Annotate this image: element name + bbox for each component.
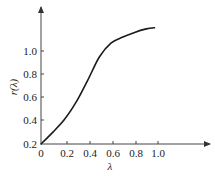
x-tick-label: 0.6 <box>106 147 120 159</box>
chart: 1.0 0.8 0.6 0.4 0.2 0 0.2 0.4 0.6 0.8 1.… <box>0 0 215 178</box>
y-tick-label: 1.0 <box>23 45 37 57</box>
series-line <box>41 28 155 144</box>
y-tick-label: 0.4 <box>23 114 37 126</box>
x-axis-label: λ <box>107 160 113 172</box>
y-tick-label: 0.6 <box>23 91 37 103</box>
x-tick-label: 0 <box>38 147 44 159</box>
y-tick-label: 0.2 <box>23 138 37 150</box>
x-tick-label: 0.2 <box>60 147 74 159</box>
x-tick-label: 1.0 <box>151 147 165 159</box>
x-tick-label: 0.4 <box>83 147 97 159</box>
x-tick-label: 0.8 <box>129 147 143 159</box>
y-axis-label: r(λ) <box>7 78 20 95</box>
y-tick-label: 0.8 <box>23 68 37 80</box>
